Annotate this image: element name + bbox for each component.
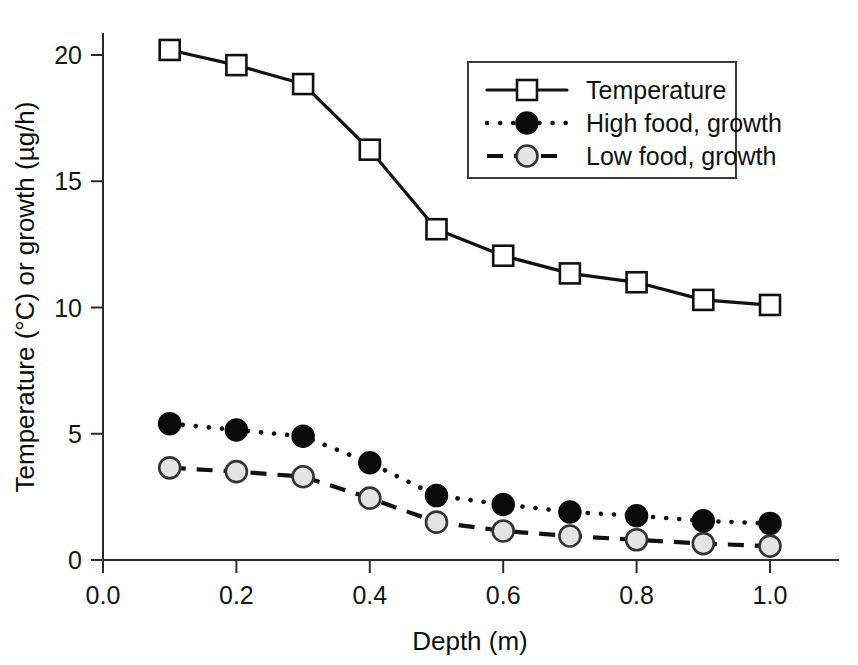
legend-marker-2 bbox=[516, 112, 538, 134]
data-point-marker bbox=[426, 512, 447, 533]
data-point-marker bbox=[492, 493, 514, 515]
data-point-marker bbox=[359, 452, 381, 474]
data-point-marker bbox=[760, 536, 781, 557]
data-point-marker bbox=[225, 419, 247, 441]
series-line-3 bbox=[170, 468, 770, 546]
data-point-marker bbox=[427, 219, 447, 239]
y-tick-label: 10 bbox=[54, 294, 82, 322]
x-tick-label: 0.0 bbox=[86, 581, 121, 609]
data-point-marker bbox=[293, 74, 313, 94]
legend-label-2: High food, growth bbox=[586, 109, 782, 137]
data-point-marker bbox=[626, 529, 647, 550]
data-point-marker bbox=[692, 510, 714, 532]
data-point-marker bbox=[493, 246, 513, 266]
data-point-marker bbox=[360, 140, 380, 160]
y-axis-ticks: 05101520 bbox=[54, 41, 103, 574]
x-tick-label: 0.2 bbox=[219, 581, 254, 609]
data-point-marker bbox=[559, 501, 581, 523]
x-tick-label: 0.4 bbox=[352, 581, 387, 609]
legend-entry-1[interactable]: Temperature bbox=[487, 76, 726, 104]
y-tick-label: 5 bbox=[68, 420, 82, 448]
chart-legend: TemperatureHigh food, growthLow food, gr… bbox=[468, 62, 782, 178]
data-point-marker bbox=[293, 466, 314, 487]
data-point-marker bbox=[627, 272, 647, 292]
data-point-marker bbox=[292, 425, 314, 447]
x-tick-label: 0.6 bbox=[486, 581, 521, 609]
x-axis-title: Depth (m) bbox=[412, 626, 528, 656]
x-tick-label: 1.0 bbox=[753, 581, 788, 609]
legend-marker-1 bbox=[517, 80, 537, 100]
x-axis-ticks: 0.00.20.40.60.81.0 bbox=[86, 560, 788, 609]
y-axis-title: Temperature (°C) or growth (µg/h) bbox=[10, 102, 40, 493]
chart-figure: 05101520 0.00.20.40.60.81.0 Temperature … bbox=[0, 0, 858, 665]
data-point-marker bbox=[493, 520, 514, 541]
data-point-marker bbox=[626, 505, 648, 527]
legend-entry-2[interactable]: High food, growth bbox=[487, 109, 782, 137]
legend-label-1: Temperature bbox=[586, 76, 726, 104]
data-point-marker bbox=[760, 295, 780, 315]
data-point-marker bbox=[160, 40, 180, 60]
data-point-marker bbox=[226, 461, 247, 482]
legend-entry-3[interactable]: Low food, growth bbox=[487, 142, 776, 170]
data-point-marker bbox=[159, 457, 180, 478]
data-point-marker bbox=[693, 290, 713, 310]
x-tick-label: 0.8 bbox=[619, 581, 654, 609]
y-tick-label: 0 bbox=[68, 546, 82, 574]
y-tick-label: 20 bbox=[54, 41, 82, 69]
legend-label-3: Low food, growth bbox=[586, 142, 776, 170]
data-point-marker bbox=[226, 55, 246, 75]
line-chart-canvas: 05101520 0.00.20.40.60.81.0 Temperature … bbox=[0, 0, 858, 665]
data-point-marker bbox=[359, 488, 380, 509]
data-point-marker bbox=[159, 413, 181, 435]
legend-marker-3 bbox=[517, 146, 538, 167]
y-tick-label: 15 bbox=[54, 167, 82, 195]
legend-items: TemperatureHigh food, growthLow food, gr… bbox=[487, 76, 782, 170]
data-point-marker bbox=[559, 526, 580, 547]
data-point-marker bbox=[426, 485, 448, 507]
data-point-marker bbox=[560, 263, 580, 283]
data-point-marker bbox=[693, 533, 714, 554]
data-point-marker bbox=[759, 512, 781, 534]
series-3 bbox=[159, 457, 780, 556]
